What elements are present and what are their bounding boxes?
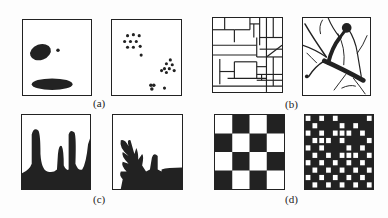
panel-d-left [214,114,285,190]
columnar-growth-figure [22,115,90,189]
panel-c-right [112,114,183,190]
label-d: (d) [285,193,298,205]
coral-growth-figure [113,115,182,189]
fine-checkerboard-figure [305,115,373,189]
dendritic-figure [303,18,370,95]
panel-c-left [21,114,91,190]
panel-d-right [304,114,374,190]
partition-network-figure [213,18,282,92]
panel-a-left [22,19,92,96]
dot-clusters-figure [112,20,181,95]
panel-b-left [212,17,283,93]
label-a: (a) [93,97,105,109]
label-c: (c) [93,193,105,205]
panel-a-right [111,19,182,96]
label-b: (b) [285,98,298,110]
coarse-checkerboard-figure [215,115,284,189]
blobs-figure [23,20,91,95]
panel-b-right [302,17,371,96]
